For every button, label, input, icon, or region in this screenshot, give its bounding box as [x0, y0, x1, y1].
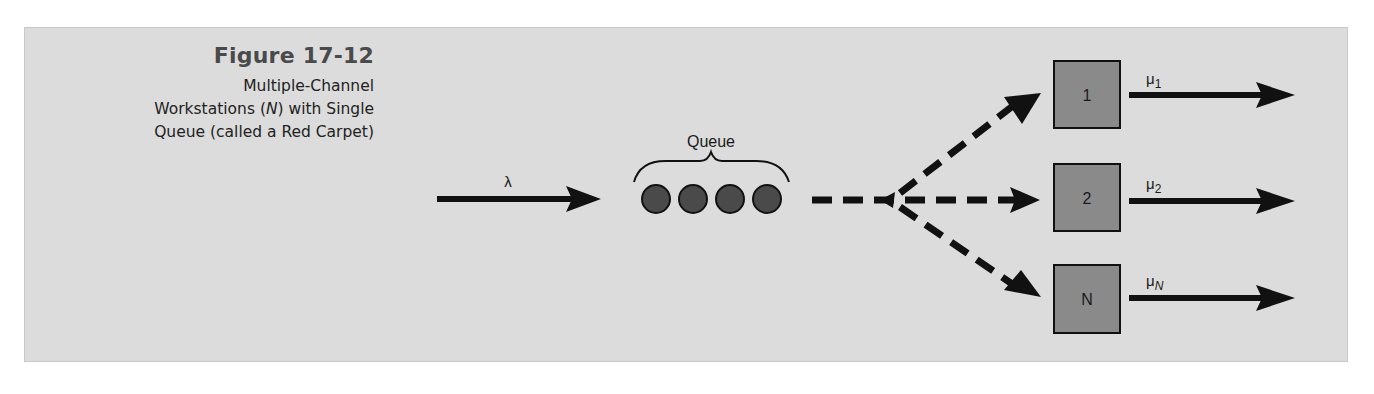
arrival-arrow	[437, 186, 601, 212]
queue-item-icon	[642, 185, 670, 213]
station-2: 2	[1054, 164, 1120, 231]
station-label: N	[1081, 291, 1093, 308]
queue-item-icon	[716, 185, 744, 213]
split-point-icon	[880, 192, 895, 208]
station-label: 2	[1083, 190, 1092, 207]
service-rate-n: μN	[1146, 272, 1164, 293]
service-rate-1: μ1	[1146, 70, 1162, 91]
route-arrowhead-n	[1004, 270, 1041, 297]
queue-item-icon	[753, 185, 781, 213]
queue-brace-icon	[634, 152, 789, 182]
routing-arrows	[812, 102, 1018, 288]
arrival-rate-label: λ	[504, 173, 512, 190]
queue-diagram: λ Queue 1 2 N μ1 μ2	[0, 0, 1374, 394]
service-rate-2: μ2	[1146, 175, 1162, 196]
station-1: 1	[1054, 61, 1120, 128]
station-n: N	[1054, 265, 1120, 333]
queue-label: Queue	[687, 133, 735, 150]
queue-items	[642, 185, 781, 213]
queue-item-icon	[679, 185, 707, 213]
station-label: 1	[1083, 87, 1092, 104]
